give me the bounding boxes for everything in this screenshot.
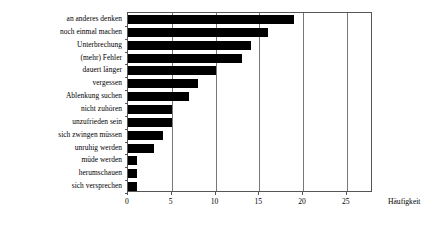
x-tick: [171, 192, 172, 195]
category-label: Unterbrechung: [8, 40, 122, 49]
gridline-20: [303, 13, 304, 191]
bar: [128, 144, 154, 153]
category-label: (mehr) Fehler: [8, 53, 122, 62]
category-label: unzufrieden sein: [8, 117, 122, 126]
bar: [128, 79, 198, 88]
category-label: dauert länger: [8, 65, 122, 74]
category-label: nicht zuhören: [8, 104, 122, 113]
category-label: Ablenkung suchen: [8, 91, 122, 100]
bar: [128, 118, 172, 127]
bar: [128, 182, 137, 191]
bar: [128, 131, 163, 140]
category-label: müde werden: [8, 155, 122, 164]
bar: [128, 15, 294, 24]
y-tick: [125, 167, 128, 168]
x-tick-label: 0: [114, 197, 140, 207]
category-label: an anderes denken: [8, 14, 122, 23]
x-tick-label: 15: [245, 197, 271, 207]
x-tick: [127, 192, 128, 195]
bar: [128, 92, 189, 101]
bar: [128, 66, 216, 75]
bar: [128, 28, 268, 37]
category-label: herumschauen: [8, 168, 122, 177]
category-label: sich versprechen: [8, 181, 122, 190]
category-label: noch einmal machen: [8, 27, 122, 36]
x-tick: [215, 192, 216, 195]
x-tick: [346, 192, 347, 195]
y-tick: [125, 64, 128, 65]
y-tick: [125, 77, 128, 78]
x-tick: [258, 192, 259, 195]
y-tick: [125, 154, 128, 155]
x-tick-label: 10: [202, 197, 228, 207]
y-tick: [125, 90, 128, 91]
bar: [128, 105, 172, 114]
y-tick: [125, 103, 128, 104]
category-label: sich zwingen müssen: [8, 130, 122, 139]
gridline-15: [259, 13, 260, 191]
x-tick: [302, 192, 303, 195]
y-tick: [125, 180, 128, 181]
bar: [128, 156, 137, 165]
bar: [128, 169, 137, 178]
category-label: unruhig werden: [8, 143, 122, 152]
bar-chart: an anderes denkennoch einmal machenUnter…: [0, 0, 442, 231]
x-tick-label: 5: [158, 197, 184, 207]
x-tick-label: 20: [289, 197, 315, 207]
bar: [128, 41, 251, 50]
category-axis: an anderes denkennoch einmal machenUnter…: [8, 12, 122, 192]
category-label: vergessen: [8, 78, 122, 87]
x-axis-title: Häufigkeit: [388, 197, 420, 207]
plot-area: [127, 12, 372, 192]
bar: [128, 54, 242, 63]
x-axis: 0510152025: [127, 192, 372, 216]
x-tick-label: 25: [333, 197, 359, 207]
gridline-25: [347, 13, 348, 191]
